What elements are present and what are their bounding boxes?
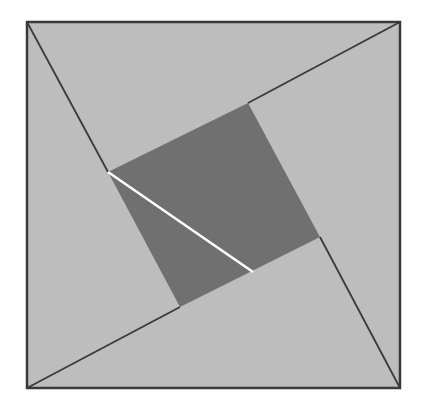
- pythagorean-square-diagram: [0, 0, 421, 409]
